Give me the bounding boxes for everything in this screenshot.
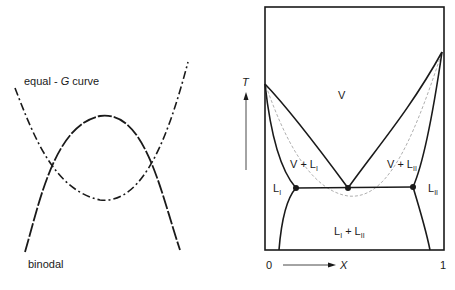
x-axis-label: X (339, 259, 348, 271)
region-v-l2: V + LII (387, 158, 417, 172)
region-l1: LI (273, 182, 281, 196)
t-arrow-head (244, 92, 249, 100)
right-panel: T X 0 1 V V + LI V + LII LI LII LI + (242, 7, 446, 271)
equal-g-label: equal - G curve (24, 75, 99, 87)
left-panel: equal - G curve binodal (15, 62, 188, 270)
right-three-phase-point (410, 184, 416, 190)
region-v-l1: V + LI (290, 158, 318, 172)
region-l1-l2: LI + LII (334, 225, 365, 239)
three-phase-line (296, 187, 413, 188)
figure: equal - G curve binodal T X 0 1 (0, 0, 455, 290)
diagram-frame (265, 7, 444, 250)
region-l2: LII (428, 182, 438, 196)
heteroazeotrope-point (345, 185, 351, 191)
bubble-curve-left (265, 84, 296, 188)
dashed-equal-g-curve (266, 52, 442, 196)
solubility-left (279, 188, 296, 250)
t-axis-label: T (242, 76, 250, 88)
x-min-label: 0 (266, 259, 272, 271)
bubble-curve-right (413, 52, 442, 187)
left-three-phase-point (293, 185, 299, 191)
region-v: V (338, 89, 346, 101)
binodal-curve (25, 116, 180, 252)
dew-curve-left (265, 84, 348, 188)
x-arrow-head (328, 263, 336, 268)
solubility-right (413, 187, 430, 250)
x-max-label: 1 (440, 259, 446, 271)
binodal-label: binodal (28, 258, 63, 270)
